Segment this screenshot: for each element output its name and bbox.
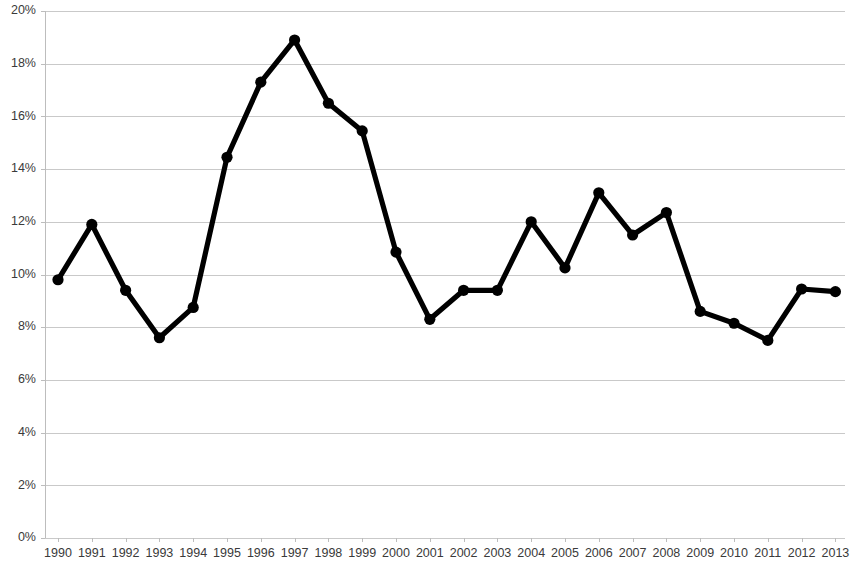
- data-point-2002: [458, 285, 469, 296]
- x-axis-label-2001: 2001: [416, 546, 444, 560]
- data-point-2009: [695, 306, 706, 317]
- data-point-2003: [492, 285, 503, 296]
- x-axis-label-1997: 1997: [281, 546, 309, 560]
- y-axis: [41, 11, 46, 539]
- x-axis-label-1994: 1994: [179, 546, 207, 560]
- y-axis-label-0pct: 0%: [18, 530, 36, 544]
- series-line-0: [58, 40, 835, 340]
- x-axis-label-1990: 1990: [44, 546, 72, 560]
- x-axis-label-2003: 2003: [483, 546, 511, 560]
- data-point-2000: [390, 247, 401, 258]
- x-axis-label-2011: 2011: [754, 546, 781, 560]
- x-axis-label-1995: 1995: [213, 546, 241, 560]
- x-axis-label-1991: 1991: [78, 546, 106, 560]
- y-axis-tick-labels: 0%2%4%6%8%10%12%14%16%18%20%: [11, 3, 36, 544]
- data-point-1991: [86, 219, 97, 230]
- y-axis-label-6pct: 6%: [18, 372, 36, 386]
- x-axis-label-2010: 2010: [720, 546, 748, 560]
- data-point-2011: [762, 335, 773, 346]
- x-axis-label-1993: 1993: [145, 546, 173, 560]
- line-chart: 0%2%4%6%8%10%12%14%16%18%20% 19901991199…: [0, 0, 854, 561]
- x-axis-label-2000: 2000: [382, 546, 410, 560]
- x-axis-label-2002: 2002: [450, 546, 478, 560]
- y-axis-label-4pct: 4%: [18, 425, 36, 439]
- data-point-1995: [221, 152, 232, 163]
- data-point-2006: [593, 187, 604, 198]
- x-axis-label-2006: 2006: [585, 546, 613, 560]
- data-point-2008: [661, 207, 672, 218]
- y-axis-label-2pct: 2%: [18, 478, 36, 492]
- chart-canvas: 0%2%4%6%8%10%12%14%16%18%20% 19901991199…: [0, 0, 854, 561]
- x-axis-label-2004: 2004: [517, 546, 545, 560]
- data-point-1999: [357, 125, 368, 136]
- data-point-1997: [289, 34, 300, 45]
- x-axis-tick-labels: 1990199119921993199419951996199719981999…: [44, 546, 849, 560]
- x-axis-label-1998: 1998: [314, 546, 342, 560]
- data-point-2013: [830, 286, 841, 297]
- data-point-1990: [52, 274, 63, 285]
- x-axis-label-2005: 2005: [551, 546, 579, 560]
- y-axis-label-20pct: 20%: [11, 3, 36, 17]
- data-point-2001: [424, 314, 435, 325]
- data-point-1994: [188, 302, 199, 313]
- data-point-2004: [526, 216, 537, 227]
- y-axis-label-10pct: 10%: [11, 267, 36, 281]
- data-point-2010: [728, 318, 739, 329]
- data-point-1992: [120, 285, 131, 296]
- data-point-1996: [255, 77, 266, 88]
- data-point-markers: [52, 34, 841, 346]
- y-axis-label-18pct: 18%: [11, 56, 36, 70]
- data-series: [58, 40, 835, 340]
- x-axis-label-1992: 1992: [112, 546, 140, 560]
- x-axis-label-1999: 1999: [348, 546, 376, 560]
- data-point-2007: [627, 229, 638, 240]
- data-point-1998: [323, 98, 334, 109]
- x-axis-label-2013: 2013: [821, 546, 849, 560]
- y-axis-label-8pct: 8%: [18, 319, 36, 333]
- y-axis-label-16pct: 16%: [11, 109, 36, 123]
- x-axis-label-2008: 2008: [652, 546, 680, 560]
- y-axis-label-12pct: 12%: [11, 214, 36, 228]
- data-point-2005: [559, 262, 570, 273]
- y-axis-label-14pct: 14%: [11, 161, 36, 175]
- gridlines: [45, 12, 845, 539]
- x-axis-label-1996: 1996: [247, 546, 275, 560]
- data-point-2012: [796, 283, 807, 294]
- data-point-1993: [154, 332, 165, 343]
- x-axis-label-2007: 2007: [619, 546, 647, 560]
- x-axis-label-2012: 2012: [788, 546, 816, 560]
- x-axis-label-2009: 2009: [686, 546, 714, 560]
